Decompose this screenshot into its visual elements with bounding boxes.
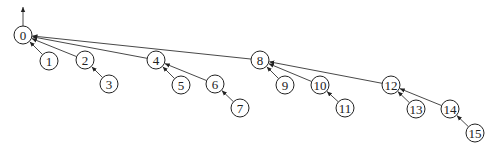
tree-node-11: 11	[336, 99, 354, 117]
node-label: 4	[153, 53, 160, 68]
edge-9-to-8	[267, 67, 279, 79]
edge-1-to-0	[30, 42, 43, 55]
tree-node-4: 4	[147, 51, 165, 69]
node-label: 9	[282, 78, 289, 93]
tree-node-6: 6	[206, 75, 224, 93]
tree-node-3: 3	[100, 75, 118, 93]
node-label: 5	[178, 78, 185, 93]
edge-15-to-14	[457, 116, 469, 127]
tree-node-15: 15	[466, 124, 484, 142]
tree-node-9: 9	[276, 76, 294, 94]
node-label: 10	[314, 78, 327, 93]
tree-node-12: 12	[382, 76, 400, 94]
tree-node-13: 13	[407, 100, 425, 118]
tree-node-7: 7	[231, 99, 249, 117]
node-label: 3	[106, 77, 113, 92]
tree-node-14: 14	[441, 100, 459, 118]
edge-7-to-6	[222, 91, 234, 102]
node-label: 14	[444, 102, 458, 117]
edge-5-to-4	[163, 67, 175, 79]
edge-8-to-0	[32, 36, 251, 59]
tree-node-10: 10	[311, 76, 329, 94]
tree-node-5: 5	[172, 76, 190, 94]
edge-13-to-12	[398, 92, 410, 103]
node-label: 8	[257, 53, 264, 68]
tree-node-0: 0	[14, 26, 32, 44]
node-label: 15	[469, 126, 482, 141]
node-label: 12	[385, 78, 398, 93]
node-label: 11	[339, 101, 352, 116]
node-label: 6	[212, 77, 219, 92]
tree-node-8: 8	[251, 51, 269, 69]
nodes-layer: 0123456789101112131415	[14, 26, 484, 142]
node-label: 1	[46, 54, 53, 69]
edge-11-to-10	[327, 91, 338, 101]
tree-node-2: 2	[76, 51, 94, 69]
node-label: 7	[237, 101, 244, 116]
edge-3-to-2	[92, 67, 103, 78]
node-label: 2	[82, 53, 89, 68]
node-label: 13	[410, 102, 423, 117]
node-label: 0	[20, 28, 27, 43]
tree-node-1: 1	[40, 52, 58, 70]
binomial-tree-diagram: 0123456789101112131415	[0, 0, 503, 153]
